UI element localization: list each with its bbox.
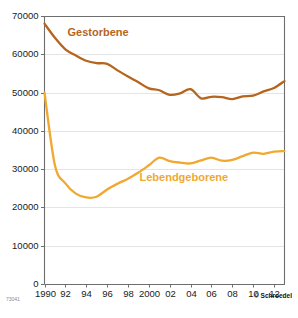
x-tick-label-2002: 02 <box>165 288 176 299</box>
y-tick-label-10000: 10000 <box>12 240 38 251</box>
chart-container: 010000200003000040000500006000070000 199… <box>0 0 298 318</box>
x-tick-label-1992: 92 <box>60 288 71 299</box>
y-tick-label-50000: 50000 <box>12 87 38 98</box>
y-tick-label-30000: 30000 <box>12 163 38 174</box>
y-tick-label-70000: 70000 <box>12 10 38 21</box>
x-tick-label-1996: 96 <box>102 288 113 299</box>
series-annotation-gestorbene: Gestorbene <box>68 26 129 38</box>
x-tick-label-2008: 08 <box>227 288 238 299</box>
y-tick-label-60000: 60000 <box>12 48 38 59</box>
x-tick-label-2000: 2000 <box>139 288 160 299</box>
series-annotation-lebendgeborene: Lebendgeborene <box>140 171 229 183</box>
y-tick-label-40000: 40000 <box>12 125 38 136</box>
x-tick-label-1994: 94 <box>81 288 92 299</box>
x-tick-label-1998: 98 <box>123 288 134 299</box>
x-tick-label-2004: 04 <box>186 288 197 299</box>
x-tick-label-2006: 06 <box>206 288 217 299</box>
image-code-label: 73041 <box>6 296 20 302</box>
population-line-chart: 010000200003000040000500006000070000 199… <box>0 0 298 318</box>
x-tick-label-1990: 1990 <box>35 288 56 299</box>
y-tick-label-20000: 20000 <box>12 201 38 212</box>
copyright-label: © Schroedel <box>254 292 292 299</box>
